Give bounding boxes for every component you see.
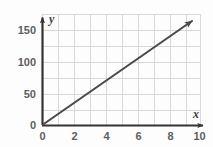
line-graph: 150 100 50 0 0 2 4 6 8 10 y x xyxy=(0,0,213,147)
x-tick-label-10: 10 xyxy=(190,131,209,142)
y-tick-label-150: 150 xyxy=(8,25,36,36)
x-tick-label-2: 2 xyxy=(66,131,83,142)
x-tick-label-6: 6 xyxy=(130,131,147,142)
x-tick-label-0: 0 xyxy=(34,131,51,142)
x-tick-label-4: 4 xyxy=(98,131,115,142)
y-tick-label-100: 100 xyxy=(8,57,36,68)
x-tick-label-8: 8 xyxy=(162,131,179,142)
y-tick-label-0: 0 xyxy=(8,120,36,131)
x-axis-label: x xyxy=(193,108,199,120)
y-tick-label-50: 50 xyxy=(8,89,36,100)
y-axis-label: y xyxy=(49,13,54,25)
